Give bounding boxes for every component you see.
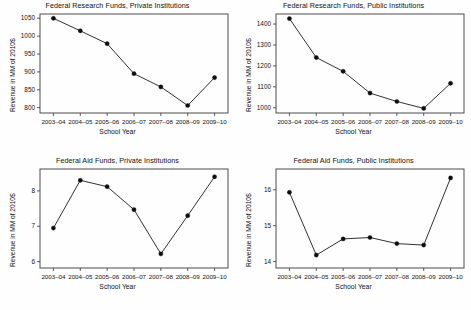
x-tick-label: 2006–07 [358,118,383,125]
data-point [132,72,136,76]
y-tick-label: 850 [24,86,35,93]
y-tick-label: 6 [31,258,35,265]
data-point [132,208,136,212]
panel-research-public: Federal Research Funds, Public Instituti… [236,0,471,155]
y-tick-label: 7 [31,222,35,229]
y-tick-label: 1000 [21,32,36,39]
data-point [448,176,452,180]
series-line [53,177,214,254]
data-point [314,55,318,59]
x-tick-label: 2007–08 [385,118,410,125]
data-point [395,242,399,246]
x-tick-label: 2007–08 [149,273,174,280]
data-point [78,29,82,33]
series-line [53,18,214,105]
data-point [395,99,399,103]
data-point [51,226,55,230]
data-point [212,175,216,179]
x-axis-label: School Year [236,283,471,290]
x-tick-label: 2006–07 [358,273,383,280]
y-tick-label: 1100 [257,83,271,90]
y-tick-label: 16 [264,186,272,193]
data-point [341,69,345,73]
x-tick-label: 2008–09 [412,118,437,125]
x-tick-label: 2007–08 [385,273,410,280]
plot-frame [276,14,464,113]
x-tick-label: 2005–06 [95,118,120,125]
y-tick-label: 1300 [257,41,272,48]
data-point [422,243,426,247]
x-axis-label: School Year [0,128,235,135]
x-tick-label: 2009–10 [203,118,228,125]
x-tick-label: 2005–06 [331,273,356,280]
x-axis-label: School Year [236,128,471,135]
x-tick-label: 2003–04 [277,118,302,125]
y-tick-label: 950 [24,50,35,57]
plot-frame [40,169,228,268]
data-point [287,190,291,194]
x-tick-label: 2009–10 [439,118,464,125]
data-point [186,214,190,218]
x-tick-label: 2008–09 [412,273,437,280]
x-tick-label: 2004–05 [68,273,93,280]
y-tick-label: 800 [24,104,35,111]
data-point [51,16,55,20]
x-tick-label: 2008–09 [176,118,201,125]
data-point [78,178,82,182]
data-point [159,85,163,89]
x-axis-label: School Year [0,283,235,290]
data-point [105,185,109,189]
x-tick-label: 2004–05 [304,118,329,125]
y-tick-label: 14 [264,258,272,265]
x-tick-label: 2003–04 [41,118,66,125]
data-point [105,42,109,46]
x-tick-label: 2004–05 [68,118,93,125]
x-tick-label: 2005–06 [95,273,120,280]
data-point [314,253,318,257]
data-point [368,91,372,95]
x-tick-label: 2006–07 [122,273,147,280]
panel-aid-public: Federal Aid Funds, Public Institutions R… [236,155,471,310]
data-point [368,235,372,239]
data-point [448,81,452,85]
x-tick-label: 2007–08 [149,118,174,125]
data-point [212,76,216,80]
series-line [289,178,450,255]
y-tick-label: 1000 [257,104,272,111]
plot-frame [276,169,464,268]
y-tick-label: 8 [31,187,35,194]
x-tick-label: 2003–04 [41,273,66,280]
data-point [287,17,291,21]
y-tick-label: 15 [264,222,272,229]
x-tick-label: 2008–09 [176,273,201,280]
data-point [186,103,190,107]
y-tick-label: 1400 [257,20,272,27]
data-point [422,106,426,110]
plot-frame [40,14,228,113]
panel-research-private: Federal Research Funds, Private Institut… [0,0,235,155]
panel-aid-private: Federal Aid Funds, Private Institutions … [0,155,235,310]
figure-multi-panel-line-charts: Federal Research Funds, Private Institut… [0,0,471,310]
x-tick-label: 2004–05 [304,273,329,280]
data-point [341,237,345,241]
y-tick-label: 1200 [257,62,272,69]
data-point [159,252,163,256]
x-tick-label: 2005–06 [331,118,356,125]
y-tick-label: 1050 [21,14,36,21]
x-tick-label: 2003–04 [277,273,302,280]
x-tick-label: 2006–07 [122,118,147,125]
x-tick-label: 2009–10 [203,273,228,280]
y-tick-label: 900 [24,68,35,75]
x-tick-label: 2009–10 [439,273,464,280]
